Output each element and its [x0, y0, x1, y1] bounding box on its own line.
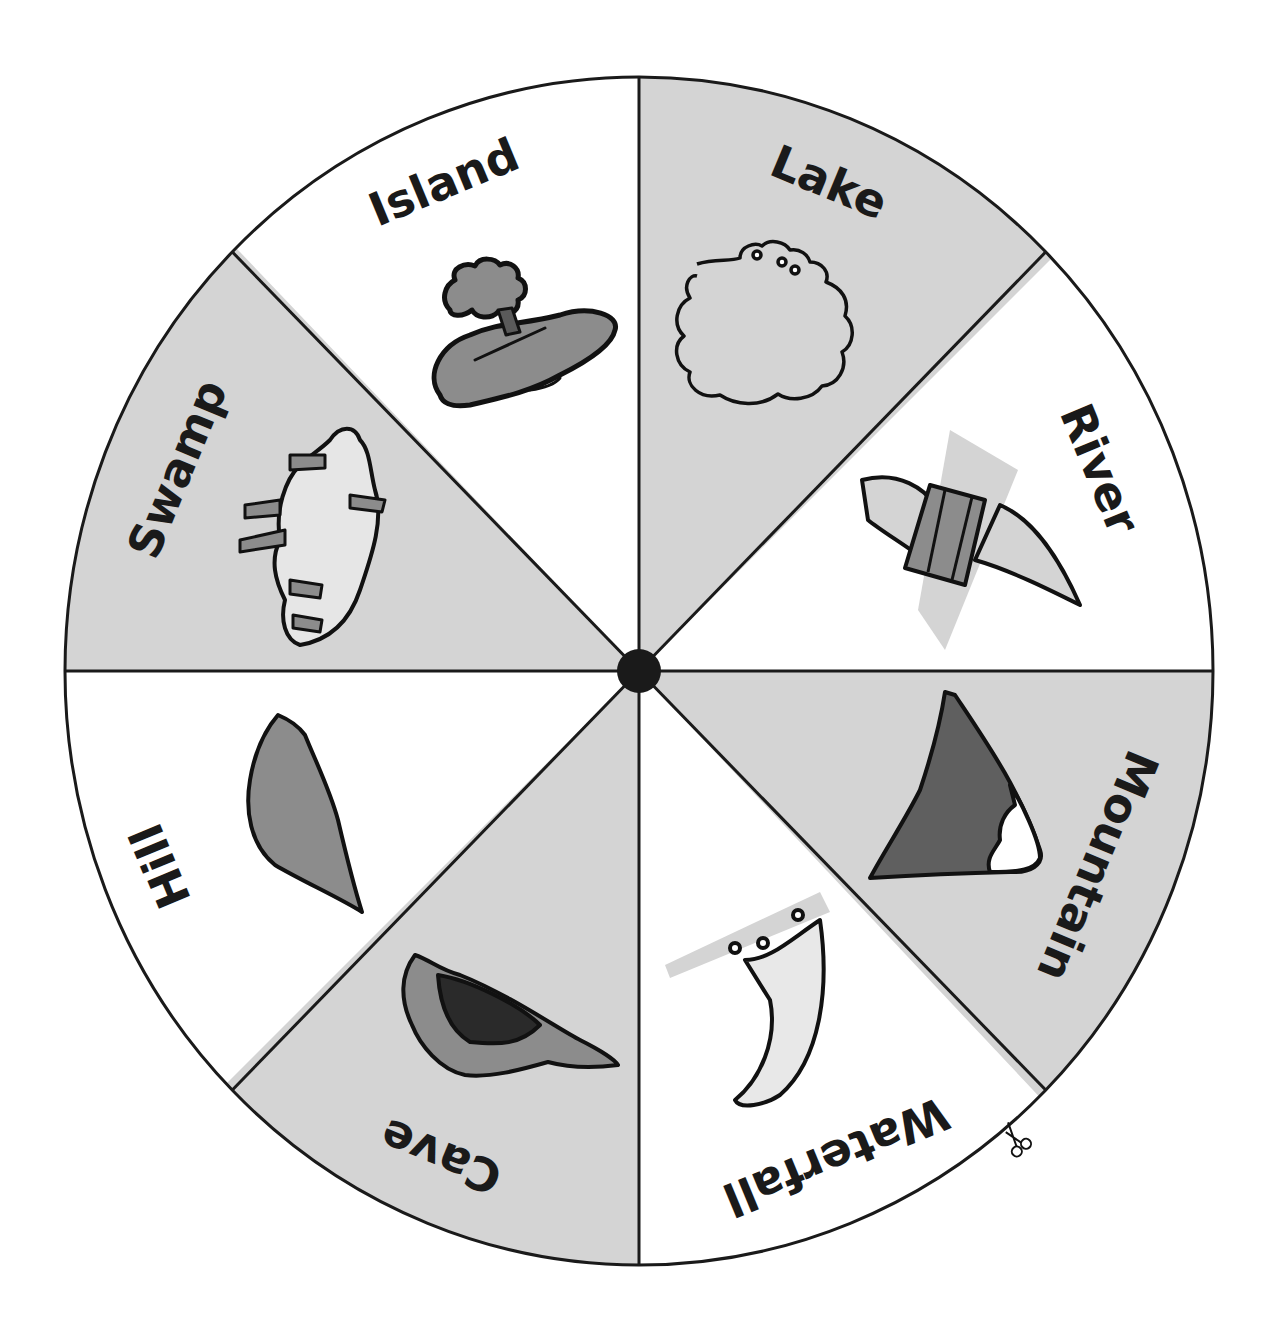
wheel-hub[interactable] — [617, 649, 661, 693]
landform-spinner-wheel: Island Lake River Mountain Waterfall Cav… — [0, 0, 1269, 1326]
